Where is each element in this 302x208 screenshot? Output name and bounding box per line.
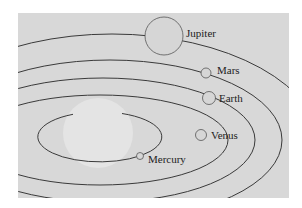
planet-earth (203, 92, 216, 105)
solar-system-diagram: Jupiter Mars Earth Venus Mercury (0, 0, 302, 208)
label-mars: Mars (217, 64, 240, 76)
sun (63, 98, 133, 168)
planet-mercury (137, 153, 144, 160)
label-earth: Earth (219, 92, 243, 104)
planet-venus (196, 130, 207, 141)
label-venus: Venus (211, 129, 238, 141)
label-mercury: Mercury (148, 153, 186, 165)
planet-jupiter (145, 17, 183, 55)
label-jupiter: Jupiter (186, 27, 216, 39)
planet-mars (201, 68, 211, 78)
